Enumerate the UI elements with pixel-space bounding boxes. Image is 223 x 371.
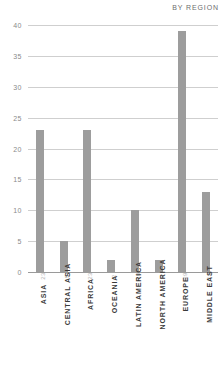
- x-axis-category-label: CENTRAL ASIA: [64, 263, 71, 326]
- x-axis-category-label: NORTH AMERICA: [159, 259, 166, 330]
- y-axis-tick-label: 35: [13, 52, 22, 59]
- plot-area: 0510152025303540: [28, 25, 218, 272]
- y-axis-tick-label: 30: [13, 83, 22, 90]
- x-axis-category-label: LATIN AMERICA: [135, 261, 142, 327]
- gridline: 30: [28, 87, 218, 88]
- bar[interactable]: [202, 192, 210, 272]
- x-axis-label-group: 2OCEANIA: [105, 276, 117, 371]
- bar[interactable]: [107, 260, 115, 272]
- gridline: 20: [28, 149, 218, 150]
- x-axis-label-group: 5CENTRAL ASIA: [58, 276, 70, 371]
- x-axis-category-label: MIDDLE EAST: [206, 265, 213, 322]
- x-axis-label-group: 13MIDDLE EAST: [200, 276, 212, 371]
- x-axis-labels: 23ASIA5CENTRAL ASIA23AFRICA2OCEANIA10LAT…: [28, 276, 218, 371]
- axis-baseline: 0: [28, 272, 218, 273]
- y-axis-tick-label: 20: [13, 145, 22, 152]
- x-axis-category-label: OCEANIA: [111, 275, 118, 314]
- chart-title: BY REGION: [172, 4, 219, 11]
- bar[interactable]: [178, 31, 186, 272]
- y-axis-tick-label: 25: [13, 114, 22, 121]
- x-axis-category-label: AFRICA: [87, 278, 94, 310]
- gridline: 25: [28, 118, 218, 119]
- x-axis-label-group: 10LATIN AMERICA: [129, 276, 141, 371]
- gridline: 15: [28, 179, 218, 180]
- y-axis-tick-label: 0: [18, 269, 22, 276]
- x-axis-label-group: 2NORTH AMERICA: [153, 276, 165, 371]
- y-axis-tick-label: 40: [13, 22, 22, 29]
- gridline: 5: [28, 241, 218, 242]
- gridline: 40: [28, 25, 218, 26]
- bar-value-label: 23: [40, 272, 46, 279]
- x-axis-label-group: 23AFRICA: [81, 276, 93, 371]
- y-axis-tick-label: 10: [13, 207, 22, 214]
- bar[interactable]: [83, 130, 91, 272]
- gridline: 35: [28, 56, 218, 57]
- gridline: 10: [28, 210, 218, 211]
- y-axis-tick-label: 5: [18, 238, 22, 245]
- x-axis-label-group: 23ASIA: [34, 276, 46, 371]
- bar[interactable]: [36, 130, 44, 272]
- x-axis-category-label: EUROPE: [182, 277, 189, 312]
- bar-chart: BY REGION 0510152025303540 23ASIA5CENTRA…: [0, 0, 223, 371]
- x-axis-category-label: ASIA: [40, 284, 47, 304]
- y-axis-tick-label: 15: [13, 176, 22, 183]
- x-axis-label-group: 39EUROPE: [176, 276, 188, 371]
